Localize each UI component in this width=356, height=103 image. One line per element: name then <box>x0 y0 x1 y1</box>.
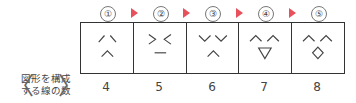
face-figure-1-icon <box>81 23 133 73</box>
step-marker-2: ② <box>153 6 169 22</box>
line-count-2: 5 <box>149 80 169 94</box>
face-figure-5-icon <box>292 23 344 73</box>
figure-cell-2 <box>134 23 187 73</box>
arrow-right-icon <box>236 8 243 18</box>
arrow-right-icon <box>131 8 138 18</box>
figure-cell-3 <box>187 23 240 73</box>
figure-cell-1 <box>81 23 134 73</box>
face-figure-3-icon <box>187 23 239 73</box>
line-count-3: 6 <box>202 80 222 94</box>
step-marker-4: ④ <box>258 6 274 22</box>
arrow-right-icon <box>289 8 296 18</box>
figure-cell-4 <box>239 23 292 73</box>
arrow-right-icon <box>183 8 190 18</box>
bracket-left: 〈 <box>10 73 34 99</box>
figure-cell-5 <box>292 23 344 73</box>
line-count-5: 8 <box>307 80 327 94</box>
face-figure-2-icon <box>134 23 186 73</box>
step-marker-5: ⑤ <box>311 6 327 22</box>
line-count-label: 〈 図形を構成 する線の数 〉 <box>10 73 82 97</box>
step-marker-3: ③ <box>205 6 221 22</box>
step-marker-1: ① <box>100 6 116 22</box>
figure-strip <box>80 22 345 74</box>
line-count-1: 4 <box>96 80 116 94</box>
face-figure-4-icon <box>239 23 291 73</box>
line-count-4: 7 <box>254 80 274 94</box>
bracket-right: 〉 <box>58 73 82 99</box>
